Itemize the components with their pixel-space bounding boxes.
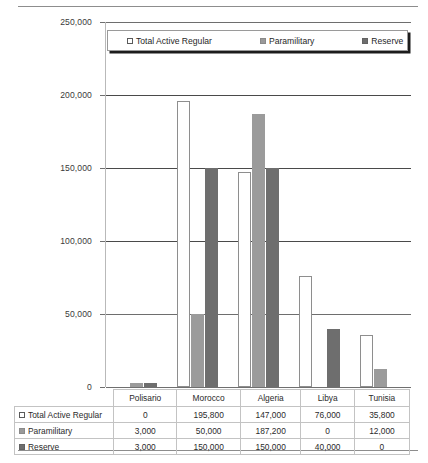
y-axis-tick-mark xyxy=(100,387,105,388)
legend-item-reserve: Reserve xyxy=(362,36,403,46)
legend-swatch-icon-total-active-regular xyxy=(127,38,133,44)
bar-group xyxy=(289,22,350,387)
table-cell: 3,000 xyxy=(114,423,177,439)
chart-data-table: PolisarioMoroccoAlgeriaLibyaTunisiaTotal… xyxy=(14,389,410,455)
bar-group xyxy=(106,22,167,387)
bar-group xyxy=(350,22,411,387)
table-cell: 0 xyxy=(114,407,177,423)
table-header-row: PolisarioMoroccoAlgeriaLibyaTunisia xyxy=(15,390,410,407)
table-row-label: Total Active Regular xyxy=(28,410,102,420)
table-column-header: Tunisia xyxy=(354,390,409,407)
table-column-header: Algeria xyxy=(240,390,301,407)
legend-item-paramilitary: Paramilitary xyxy=(260,36,314,46)
legend-swatch-icon-reserve xyxy=(362,38,368,44)
top-divider-rule xyxy=(18,6,418,7)
table-cell: 0 xyxy=(301,423,354,439)
table-row: Total Active Regular0195,800147,00076,00… xyxy=(15,407,410,423)
table-row: Paramilitary3,00050,000187,200012,000 xyxy=(15,423,410,439)
bar xyxy=(191,314,204,387)
y-axis-tick-label: 150,000 xyxy=(60,163,92,173)
bar-series-container xyxy=(106,22,411,387)
bar xyxy=(205,168,218,387)
bar-group xyxy=(167,22,228,387)
legend-label-reserve: Reserve xyxy=(371,36,403,46)
table-row-header: Total Active Regular xyxy=(15,407,114,423)
table-cell: 150,000 xyxy=(240,439,301,455)
bar-chart-figure: 050,000100,000150,000200,000250,000 Tota… xyxy=(0,10,428,450)
y-axis-tick-label: 200,000 xyxy=(60,90,92,100)
table-swatch-icon xyxy=(19,412,25,418)
x-axis-line xyxy=(106,387,411,388)
table-cell: 0 xyxy=(354,439,409,455)
table-row-header: Paramilitary xyxy=(15,423,114,439)
y-axis: 050,000100,000150,000200,000250,000 xyxy=(0,22,100,387)
table-cell: 195,800 xyxy=(177,407,240,423)
bar-group xyxy=(228,22,289,387)
table-cell: 187,200 xyxy=(240,423,301,439)
y-axis-tick-label: 250,000 xyxy=(60,17,92,27)
table-cell: 35,800 xyxy=(354,407,409,423)
legend-item-total-active-regular: Total Active Regular xyxy=(127,36,212,46)
table-cell: 40,000 xyxy=(301,439,354,455)
table-cell: 3,000 xyxy=(114,439,177,455)
bar xyxy=(360,335,373,387)
bar xyxy=(144,383,157,387)
table-cell: 50,000 xyxy=(177,423,240,439)
table-cell: 150,000 xyxy=(177,439,240,455)
y-axis-tick-label: 100,000 xyxy=(60,236,92,246)
table-swatch-icon xyxy=(19,428,25,434)
bar xyxy=(238,172,251,387)
table-swatch-icon xyxy=(19,444,25,450)
bar xyxy=(374,369,387,387)
table-column-header: Morocco xyxy=(177,390,240,407)
y-axis-tick-label: 50,000 xyxy=(65,309,92,319)
table-row: Reserve3,000150,000150,00040,0000 xyxy=(15,439,410,455)
table-row-label: Reserve xyxy=(28,442,59,452)
table-corner-cell xyxy=(15,390,114,407)
bar xyxy=(327,329,340,387)
bar xyxy=(252,114,265,387)
table-cell: 76,000 xyxy=(301,407,354,423)
legend-label-total-active-regular: Total Active Regular xyxy=(136,36,212,46)
table-cell: 12,000 xyxy=(354,423,409,439)
table-row-label: Paramilitary xyxy=(28,426,72,436)
bar xyxy=(266,168,279,387)
bar xyxy=(130,383,143,387)
bar xyxy=(299,276,312,387)
table-column-header: Polisario xyxy=(114,390,177,407)
chart-legend: Total Active Regular Paramilitary Reserv… xyxy=(107,30,408,51)
legend-swatch-icon-paramilitary xyxy=(260,38,266,44)
table-column-header: Libya xyxy=(301,390,354,407)
bar xyxy=(177,101,190,387)
legend-label-paramilitary: Paramilitary xyxy=(269,36,314,46)
plot-area xyxy=(105,22,410,387)
table-row-header: Reserve xyxy=(15,439,114,455)
table-cell: 147,000 xyxy=(240,407,301,423)
